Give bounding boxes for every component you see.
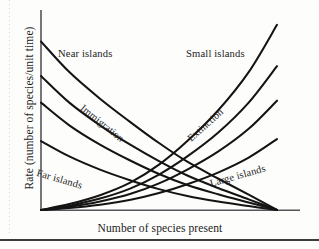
- island-biogeography-figure: Rate (number of species/unit time) Numbe…: [0, 0, 319, 249]
- annotation-near-islands: Near islands: [58, 48, 112, 59]
- annotation-small-islands: Small islands: [186, 48, 245, 59]
- x-axis-label: Number of species present: [41, 222, 279, 234]
- y-axis-label: Rate (number of species/unit time): [23, 13, 35, 203]
- plot-area: [0, 0, 319, 249]
